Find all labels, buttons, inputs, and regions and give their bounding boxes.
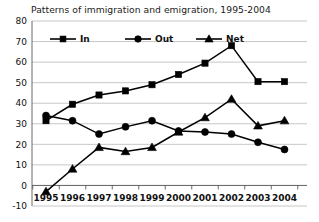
data-point-circle xyxy=(228,131,235,138)
y-tick-label: 30 xyxy=(16,119,28,129)
data-point-circle xyxy=(69,117,76,124)
legend-label: Out xyxy=(155,34,174,44)
y-tick-label: 60 xyxy=(16,57,28,67)
data-point-square xyxy=(255,79,261,85)
series-net xyxy=(42,95,289,195)
data-point-circle xyxy=(122,123,129,130)
immigration-emigration-chart: Patterns of immigration and emigration, … xyxy=(0,0,319,222)
data-point-triangle xyxy=(280,116,289,124)
legend-marker-circle xyxy=(135,36,142,43)
x-tick-label: 2004 xyxy=(272,193,297,203)
data-point-square xyxy=(69,101,75,107)
axis-lines xyxy=(32,21,307,206)
chart-legend: InOutNet xyxy=(50,34,245,44)
data-point-square xyxy=(96,92,102,98)
y-tick-label: 50 xyxy=(16,78,28,88)
legend-marker-square xyxy=(60,36,66,42)
legend-item-net[interactable]: Net xyxy=(196,34,245,44)
x-tick-label: 2002 xyxy=(219,193,244,203)
y-tick-label: 70 xyxy=(16,37,28,47)
data-point-circle xyxy=(202,129,209,136)
y-tick-label: 0 xyxy=(21,181,27,191)
data-point-square xyxy=(149,82,155,88)
y-tick-label: 20 xyxy=(16,140,28,150)
data-point-circle xyxy=(96,131,103,138)
data-point-triangle xyxy=(201,113,210,121)
legend-label: In xyxy=(80,34,90,44)
data-point-circle xyxy=(255,139,262,146)
data-point-circle xyxy=(281,146,288,153)
x-tick-label: 1996 xyxy=(60,193,85,203)
series-line-in xyxy=(46,46,285,121)
chart-plot-area: -1001020304050607080 1995199619971998199… xyxy=(0,0,319,222)
y-tick-label: -10 xyxy=(12,201,27,211)
x-tick-label: 1997 xyxy=(86,193,111,203)
data-point-circle xyxy=(149,117,156,124)
x-tick-label: 1999 xyxy=(139,193,164,203)
data-series xyxy=(42,43,289,195)
y-tick-label: 10 xyxy=(16,160,28,170)
legend-label: Net xyxy=(226,34,245,44)
series-in xyxy=(43,43,288,124)
y-axis-tick-labels: -1001020304050607080 xyxy=(12,16,27,211)
data-point-square xyxy=(202,60,208,66)
data-point-square xyxy=(281,79,287,85)
y-tick-label: 80 xyxy=(16,16,28,26)
legend-item-in[interactable]: In xyxy=(50,34,90,44)
x-tick-label: 2001 xyxy=(192,193,217,203)
data-point-square xyxy=(175,71,181,77)
x-tick-label: 2003 xyxy=(245,193,270,203)
x-axis-tick-labels: 1995199619971998199920002001200220032004 xyxy=(33,193,297,203)
y-tick-label: 40 xyxy=(16,98,28,108)
series-line-net xyxy=(46,99,285,192)
data-point-triangle xyxy=(227,95,236,103)
x-tick-label: 2000 xyxy=(166,193,191,203)
x-tick-label: 1998 xyxy=(113,193,138,203)
legend-item-out[interactable]: Out xyxy=(125,34,174,44)
data-point-square xyxy=(122,88,128,94)
data-point-circle xyxy=(43,112,50,119)
